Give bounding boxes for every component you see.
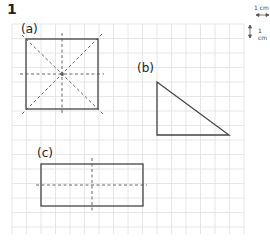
figure-a-square (20, 33, 104, 114)
figure-c-rectangle (36, 158, 147, 212)
figure-b-triangle (157, 82, 229, 135)
diagram-canvas (0, 0, 270, 242)
symmetry-lines-a (20, 33, 104, 114)
scale-vertical-arrow (249, 25, 252, 38)
scale-vertical-label: 1 cm (258, 27, 270, 41)
figure-c-label: (c) (37, 146, 53, 160)
scale-horizontal-label: 1 cm (254, 4, 269, 11)
figure-a-label: (a) (21, 22, 38, 36)
figure-b-label: (b) (137, 61, 154, 75)
grid (12, 24, 244, 234)
symmetry-lines-c (36, 158, 147, 212)
scale-horizontal-arrow (256, 14, 269, 17)
